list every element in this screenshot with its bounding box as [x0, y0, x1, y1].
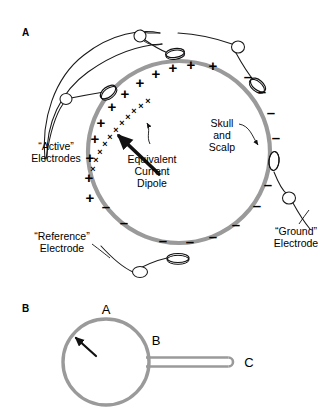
- positive-charge-9: +: [169, 59, 178, 76]
- negative-charge-3: –: [272, 129, 280, 146]
- negative-charge-2: –: [267, 104, 275, 121]
- node-label-a: A: [102, 302, 111, 317]
- positive-charge-5: +: [108, 98, 117, 115]
- figure-root: A ++++++++++++ ×××××××××××: [0, 0, 333, 417]
- node-label-c: C: [244, 355, 253, 370]
- negative-charge-8: –: [209, 228, 217, 245]
- negative-charge-extra-0: –: [102, 198, 110, 215]
- wire-ring-top-left: [60, 94, 72, 105]
- dipole-cross-9: ×: [138, 101, 143, 111]
- positive-charge-0: +: [86, 189, 95, 206]
- wire-ring-top-right: [232, 41, 245, 53]
- positive-charge-11: +: [209, 57, 218, 74]
- node-label-b: B: [152, 333, 161, 348]
- positive-charge-3: +: [91, 130, 100, 147]
- wire-ring-ground: [283, 192, 296, 204]
- positive-charge-4: +: [97, 114, 106, 131]
- negative-charge-10: –: [159, 232, 167, 249]
- positive-charge-6: +: [121, 85, 130, 102]
- dipole-cross-6: ×: [119, 118, 124, 128]
- negative-charge-9: –: [186, 233, 194, 250]
- eeg-dipole-figure: A ++++++++++++ ×××××××××××: [0, 0, 333, 417]
- dipole-cross-4: ×: [107, 132, 112, 142]
- positive-charge-7: +: [136, 74, 145, 91]
- dipole-cross-7: ×: [125, 112, 130, 122]
- ground-electrode-label: “Ground”Electrode: [274, 225, 319, 249]
- negative-charge-5: –: [264, 176, 272, 193]
- negative-charge-11: –: [120, 214, 128, 231]
- dipole-cross-5: ×: [113, 125, 118, 135]
- positive-charge-8: +: [152, 65, 161, 82]
- negative-charge-6: –: [253, 197, 261, 214]
- dipole-cross-8: ×: [131, 106, 136, 116]
- wire-ring-reference: [133, 267, 148, 278]
- dipole-cross-0: ×: [90, 164, 95, 174]
- reference-electrode-label: “Reference”Electrode: [34, 230, 90, 254]
- negative-charge-7: –: [232, 216, 240, 233]
- active-electrodes-label: “Active”Electrodes: [31, 140, 81, 164]
- panel-a-label: A: [22, 27, 29, 38]
- positive-charge-10: +: [187, 56, 196, 73]
- electrode-pad-bottom: [167, 254, 189, 265]
- wire-ring-top-middle: [134, 30, 146, 42]
- panel-b-label: B: [22, 303, 29, 314]
- dipole-cross-10: ×: [145, 96, 150, 106]
